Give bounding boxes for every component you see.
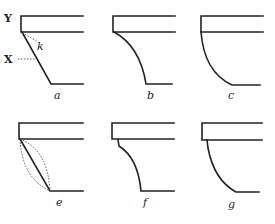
panel-label-b: b — [147, 89, 154, 102]
panel-b: b — [113, 16, 175, 102]
panel-f: f — [112, 123, 174, 209]
panel-label-e: e — [56, 196, 63, 209]
panel-c: c — [201, 16, 263, 102]
panel-a: Y X k a — [3, 12, 83, 102]
panel-g: g — [202, 123, 262, 211]
panel-label-c: c — [228, 89, 234, 102]
label-k: k — [37, 40, 44, 53]
moulding-profiles-diagram: Y X k a b c e f g — [0, 0, 275, 224]
label-X: X — [4, 53, 13, 66]
label-Y: Y — [3, 12, 12, 25]
panel-label-f: f — [142, 196, 149, 209]
panel-label-a: a — [54, 89, 61, 102]
panel-e: e — [19, 123, 83, 209]
panel-label-g: g — [228, 198, 235, 211]
